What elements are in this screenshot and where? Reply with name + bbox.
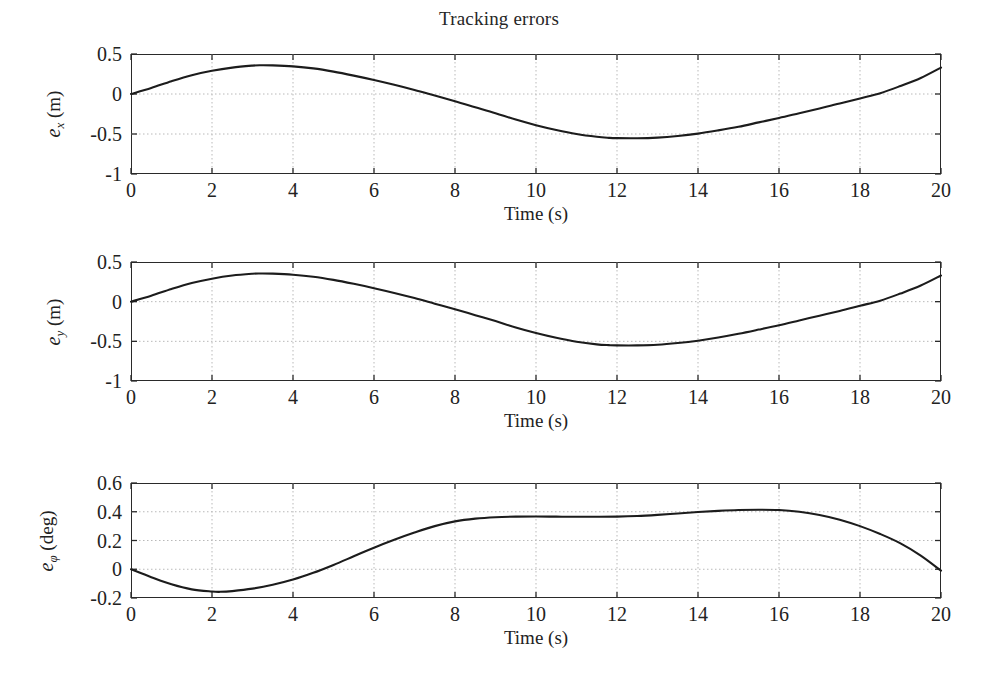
y-axis-label-ephi-symbol: e (35, 562, 57, 571)
y-tick-label: 0.6 (97, 472, 122, 495)
x-tick-label: 18 (850, 603, 870, 626)
y-axis-label-ephi-subscript: φ (45, 555, 60, 562)
x-tick-label: 2 (207, 603, 217, 626)
y-axis-label-ephi: eφ (deg) (35, 510, 61, 571)
x-axis-label-ephi: Time (s) (504, 627, 568, 649)
x-tick-label: 10 (526, 603, 546, 626)
x-tick-label: 8 (450, 603, 460, 626)
y-tick-label: -0.2 (90, 587, 122, 610)
x-tick-label: 6 (369, 603, 379, 626)
tracking-errors-figure: Tracking errors ex (m) Time (s) 0.50-0.5… (0, 0, 998, 683)
y-tick-label: 0.4 (97, 500, 122, 523)
y-tick-label: 0.2 (97, 529, 122, 552)
y-tick-label: 0 (112, 558, 122, 581)
y-axis-label-ephi-unit: (deg) (36, 510, 57, 555)
x-tick-label: 20 (931, 603, 951, 626)
plot-canvas-ephi (0, 0, 998, 683)
x-tick-label: 0 (126, 603, 136, 626)
x-tick-label: 12 (607, 603, 627, 626)
x-tick-label: 4 (288, 603, 298, 626)
x-tick-label: 16 (769, 603, 789, 626)
x-tick-label: 14 (688, 603, 708, 626)
